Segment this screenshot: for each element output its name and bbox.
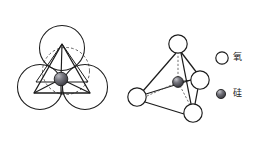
oxygen-vertex-bottom xyxy=(184,104,202,122)
legend-oxygen-marker-icon xyxy=(216,52,228,64)
edge-left-bottom xyxy=(145,102,184,114)
left-packed-sphere-diagram xyxy=(18,26,108,110)
structure-diagram xyxy=(0,0,254,143)
legend-silicon-marker-icon xyxy=(216,89,225,98)
edge-top-left xyxy=(143,53,176,91)
legend-label-silicon: 硅 xyxy=(233,89,242,98)
oxygen-vertex-top xyxy=(169,35,187,53)
silicon-sphere-right xyxy=(173,77,184,88)
oxygen-vertex-left xyxy=(128,88,146,106)
legend-markers xyxy=(216,52,228,99)
figure-container: 氧 硅 xyxy=(0,0,254,143)
oxygen-vertex-right xyxy=(191,71,209,89)
oxygen-circle-right xyxy=(63,65,108,110)
legend-label-oxygen: 氧 xyxy=(233,53,242,62)
oxygen-circle-left xyxy=(18,65,63,110)
silicon-sphere-left xyxy=(54,72,68,86)
right-tetrahedron-diagram xyxy=(128,35,209,122)
edge-left-right xyxy=(146,80,191,94)
edge-right-bottom xyxy=(195,88,198,104)
